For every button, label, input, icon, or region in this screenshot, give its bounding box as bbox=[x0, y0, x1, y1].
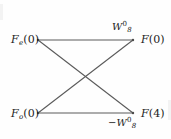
label-twiddle-bottom-base: W bbox=[116, 117, 126, 128]
label-twiddle-top-base: W bbox=[112, 21, 122, 32]
label-output-top-base: F bbox=[141, 33, 149, 46]
label-twiddle-top-sub: 8 bbox=[127, 26, 132, 34]
label-input-bottom-arg: (0) bbox=[23, 107, 39, 120]
label-output-top: F(0) bbox=[141, 34, 165, 45]
label-output-bottom: F(4) bbox=[141, 108, 165, 119]
label-twiddle-bottom-sub: 8 bbox=[132, 122, 137, 130]
node-output-top bbox=[132, 39, 134, 41]
label-input-top: Fe(0) bbox=[11, 34, 39, 47]
label-twiddle-top: W08 bbox=[112, 21, 132, 34]
label-output-bottom-arg: (4) bbox=[149, 107, 165, 120]
label-input-bottom: Fo(0) bbox=[11, 108, 39, 121]
butterfly-diagram-figure: Fe(0) Fo(0) F(0) F(4) W08 −W08 bbox=[0, 0, 171, 139]
label-twiddle-bottom-sup: 0 bbox=[127, 116, 132, 124]
label-input-top-base: F bbox=[11, 33, 19, 46]
label-twiddle-bottom: −W08 bbox=[108, 117, 136, 130]
node-output-bottom bbox=[132, 112, 134, 114]
label-output-bottom-base: F bbox=[141, 107, 149, 120]
label-input-bottom-base: F bbox=[11, 107, 19, 120]
label-output-top-arg: (0) bbox=[149, 33, 165, 46]
label-input-top-arg: (0) bbox=[23, 33, 39, 46]
